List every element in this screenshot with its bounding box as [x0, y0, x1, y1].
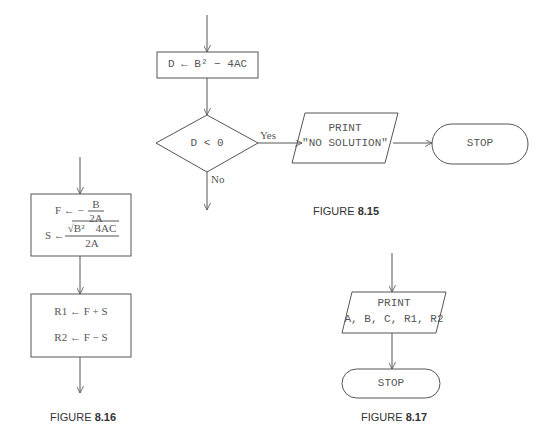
fig815-decision-text: D < 0 [156, 137, 258, 149]
fig817-print-line1: PRINT [342, 297, 446, 309]
fig817-caption-prefix: FIGURE [361, 411, 406, 423]
fig816-s-denominator: 2A [65, 237, 119, 249]
fig816-s-numerator: √B² 4AC [65, 222, 119, 234]
fig815-caption: FIGURE 8.15 [313, 205, 379, 217]
fig815-caption-number: 8.15 [358, 205, 379, 217]
fig816-caption-number: 8.16 [95, 411, 116, 423]
fig816-caption: FIGURE 8.16 [50, 411, 116, 423]
fig817-caption-number: 8.17 [406, 411, 427, 423]
fig815-print-line2: "NO SOLUTION" [292, 137, 398, 149]
fig816-f-numerator: B [88, 198, 104, 210]
fig817-print-line2: A, B, C, R1, R2 [342, 313, 446, 325]
fig816-f-lhs: F ← − [55, 204, 84, 216]
fig815-yes-label: Yes [260, 129, 276, 141]
fig817-caption: FIGURE 8.17 [361, 411, 427, 423]
fig815-caption-prefix: FIGURE [313, 205, 358, 217]
fig815-no-label: No [211, 173, 224, 185]
fig815-stop-text: STOP [432, 137, 528, 149]
fig816-r2-text: R2 ← F − S [31, 331, 131, 343]
fig816-r1-text: R1 ← F + S [31, 305, 131, 317]
fig816-s-lhs: S ← [45, 229, 65, 241]
fig816-caption-prefix: FIGURE [50, 411, 95, 423]
fig815-print-line1: PRINT [292, 122, 398, 134]
fig816-roots-box [31, 294, 131, 357]
fig815-assign-text: D ← B² − 4AC [157, 58, 258, 70]
fig817-stop-text: STOP [342, 377, 440, 389]
